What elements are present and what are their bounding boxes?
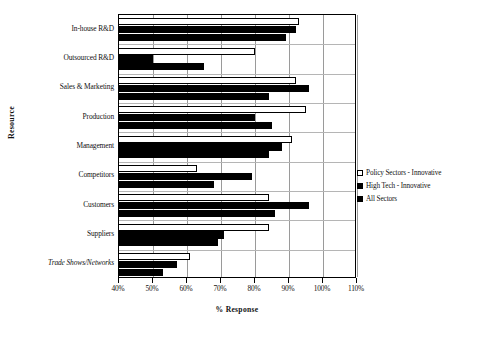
x-axis-tick-label: 100% [305,284,339,293]
legend-swatch [357,170,363,176]
x-axis-tick [288,278,289,283]
legend-item: High Tech - Innovative [357,180,477,192]
bar [119,173,252,180]
bar [119,55,153,62]
legend-label: High Tech - Innovative [366,182,430,190]
bar-group [119,103,355,132]
x-axis-tick-labels: 40%50%60%70%80%90%100%110% [118,284,356,296]
category-separator [119,74,355,75]
legend-item: All Sectors [357,193,477,205]
x-axis-tick [152,278,153,283]
bar [119,122,272,129]
x-axis-tick-label: 110% [339,284,373,293]
category-separator [119,132,355,133]
plot-area [118,14,356,278]
bar [119,114,255,121]
bar [119,224,269,231]
bar [119,210,275,217]
category-label: In-house R&D [14,24,114,33]
legend-label: Policy Sectors - Innovative [366,169,441,177]
bar [119,26,296,33]
bar [119,151,269,158]
bar [119,253,190,260]
bar [119,194,269,201]
bar-group [119,191,355,220]
x-axis-tick-label: 60% [169,284,203,293]
legend-label: All Sectors [366,195,397,203]
x-axis-tick [118,278,119,283]
x-axis-tick-label: 50% [135,284,169,293]
category-label: Management [14,141,114,150]
x-axis-tick-label: 80% [237,284,271,293]
bar-chart: Resource In-house R&DOutsourced R&DSales… [0,0,480,337]
bar [119,34,286,41]
bar [119,143,282,150]
x-axis-tick [322,278,323,283]
category-label: Sales & Marketing [14,82,114,91]
bar [119,85,309,92]
x-axis-tick-label: 90% [271,284,305,293]
category-separator [119,250,355,251]
bar-group [119,74,355,103]
x-axis-tick [220,278,221,283]
bar [119,231,224,238]
bar-group [119,220,355,249]
x-axis-tick [186,278,187,283]
bar-group [119,162,355,191]
bar [119,18,299,25]
category-label: Production [14,112,114,121]
category-label: Customers [14,200,114,209]
legend-swatch [357,196,363,202]
gridline [357,15,358,277]
bar [119,48,255,55]
legend-item: Policy Sectors - Innovative [357,167,477,179]
bar [119,136,292,143]
bar [119,261,177,268]
category-separator [119,191,355,192]
category-separator [119,103,355,104]
x-axis-tick [356,278,357,283]
bar [119,106,306,113]
bar [119,77,296,84]
bar-group [119,15,355,44]
x-axis-tick [254,278,255,283]
bar-group [119,44,355,73]
y-axis-category-labels: In-house R&DOutsourced R&DSales & Market… [14,14,117,278]
bar-group [119,132,355,161]
x-axis-tick-label: 70% [203,284,237,293]
bar-group [119,250,355,279]
category-label: Outsourced R&D [14,53,114,62]
bar [119,202,309,209]
category-label: Trade Shows/Networks [14,258,114,267]
bar [119,93,269,100]
category-label: Competitors [14,170,114,179]
x-axis-tick-label: 40% [101,284,135,293]
category-separator [119,162,355,163]
category-separator [119,44,355,45]
bar [119,269,163,276]
bar [119,165,197,172]
x-axis-title: % Response [118,305,356,314]
bar [119,239,218,246]
bar [119,63,204,70]
category-separator [119,220,355,221]
legend-swatch [357,183,363,189]
legend: Policy Sectors - InnovativeHigh Tech - I… [357,167,477,206]
bar [119,181,214,188]
category-label: Suppliers [14,229,114,238]
